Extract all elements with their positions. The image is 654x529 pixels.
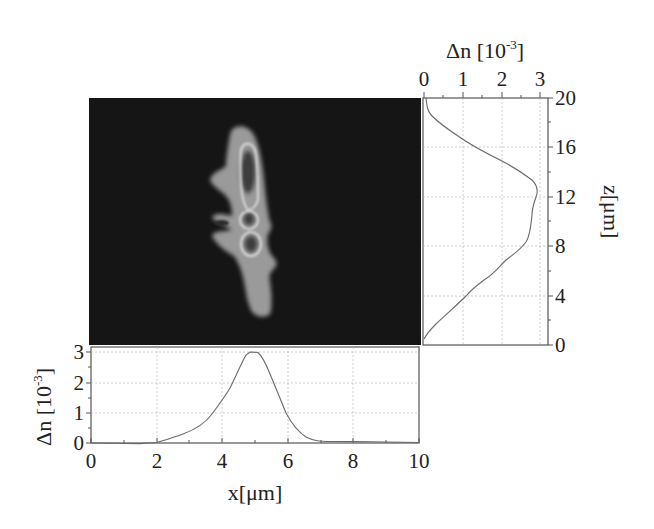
bottom-x-tick-2: 2 — [152, 449, 163, 473]
bottom-y-tick-3: 3 — [74, 340, 85, 364]
right-tick-20: 20 — [555, 86, 576, 110]
bottom-x-tick-8: 8 — [348, 449, 359, 473]
right-top-tick-2: 2 — [497, 67, 508, 91]
right-top-tick-3: 3 — [535, 67, 546, 91]
bottom-x-tick-0: 0 — [86, 449, 97, 473]
bottom-y-axis-label: Δn [10-3] — [30, 368, 56, 446]
right-tick-0: 0 — [555, 333, 566, 357]
bottom-profile-panel: 0 2 4 6 8 10 0 1 2 3 x[μm] Δn [10-3] — [30, 340, 430, 505]
right-axis-label: z[μm] — [599, 185, 624, 238]
right-panel-right-ticks — [548, 98, 553, 345]
bottom-x-tick-6: 6 — [283, 449, 294, 473]
micrograph-image — [89, 98, 421, 345]
right-top-tick-0: 0 — [419, 67, 430, 91]
right-tick-16: 16 — [555, 135, 576, 159]
bottom-y-tick-1: 1 — [74, 401, 85, 425]
right-tick-4: 4 — [555, 284, 566, 308]
right-tick-12: 12 — [555, 185, 576, 209]
bottom-x-axis-label: x[μm] — [228, 480, 283, 505]
right-top-tick-1: 1 — [458, 67, 469, 91]
bottom-y-tick-0: 0 — [74, 431, 85, 455]
right-profile-panel: 0 1 2 3 Δn [10-3] 20 16 12 8 4 0 z[μm] — [419, 37, 624, 357]
bottom-x-tick-10: 10 — [409, 449, 430, 473]
right-tick-8: 8 — [555, 234, 566, 258]
right-panel-top-ticks — [424, 92, 540, 98]
figure: 0 1 2 3 Δn [10-3] 20 16 12 8 4 0 z[μm] — [0, 0, 654, 529]
bottom-x-tick-4: 4 — [217, 449, 228, 473]
bottom-panel-y-ticks — [86, 352, 91, 443]
right-top-axis-label: Δn [10-3] — [446, 37, 524, 63]
bottom-y-tick-2: 2 — [74, 371, 85, 395]
